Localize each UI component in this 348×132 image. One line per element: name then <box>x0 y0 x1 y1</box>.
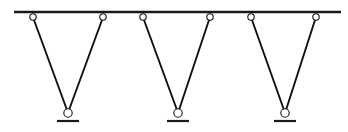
top-node-4 <box>207 14 213 20</box>
cable-3-left <box>252 20 284 110</box>
cable-3-right <box>286 20 315 110</box>
top-node-6 <box>313 14 319 20</box>
top-node-5 <box>248 14 254 20</box>
top-node-1 <box>30 14 36 20</box>
bottom-node-1 <box>64 109 72 117</box>
bottom-node-3 <box>281 109 289 117</box>
cable-1-right <box>69 20 102 110</box>
cable-2-right <box>179 20 209 110</box>
diagram-canvas <box>0 0 348 132</box>
cable-1-left <box>34 20 67 110</box>
bottom-node-2 <box>174 109 182 117</box>
cable-2-left <box>144 20 177 110</box>
top-node-3 <box>140 14 146 20</box>
diagram-svg <box>0 0 348 132</box>
top-node-2 <box>100 14 106 20</box>
